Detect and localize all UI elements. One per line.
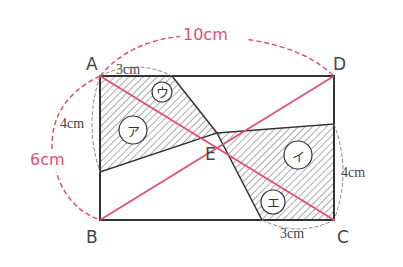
vertex-e-label: E bbox=[205, 144, 216, 164]
bottom-segment-label: 3cm bbox=[280, 226, 304, 241]
vertex-b-label: B bbox=[86, 227, 98, 247]
top-segment-label: 3cm bbox=[116, 62, 140, 77]
vertex-a-label: A bbox=[86, 54, 98, 74]
region-e-label: エ bbox=[267, 195, 280, 210]
region-a-label: ア bbox=[127, 124, 140, 139]
geometry-diagram: ウ ア イ エ A D B C E 10cm 6cm 3cm 4cm 4cm 3… bbox=[0, 0, 403, 267]
region-i-label: イ bbox=[292, 149, 305, 164]
vertex-d-label: D bbox=[333, 54, 346, 74]
height-dimension-label: 6cm bbox=[30, 150, 65, 169]
left-segment-arc bbox=[92, 76, 100, 172]
width-dimension-label: 10cm bbox=[183, 25, 228, 44]
height-dimension-arc bbox=[52, 76, 100, 220]
left-segment-label: 4cm bbox=[60, 116, 84, 131]
vertex-c-label: C bbox=[337, 227, 349, 247]
region-u-label: ウ bbox=[156, 85, 169, 100]
right-segment-label: 4cm bbox=[341, 165, 365, 180]
